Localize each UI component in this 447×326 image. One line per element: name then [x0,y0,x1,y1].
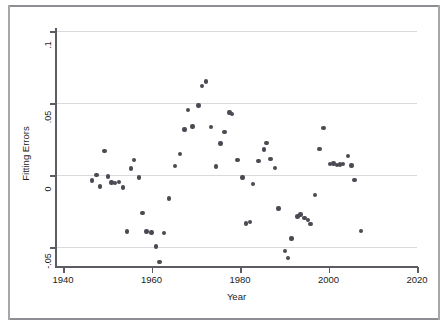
data-point [178,152,182,156]
data-point [308,222,312,226]
data-point [196,103,200,107]
data-point [102,149,106,153]
data-point [286,256,290,260]
data-point [276,206,280,210]
data-point [235,158,239,162]
chart-figure: .1.050-.05 19401960198020002020 Fitting … [0,0,447,326]
data-point [256,159,260,163]
data-point [140,211,144,215]
data-point [90,178,94,182]
gridline [57,31,417,32]
data-point [240,175,244,179]
x-tick [152,267,154,273]
gridline [57,103,417,104]
data-point [346,154,350,158]
gridline [57,247,417,248]
data-point [359,229,363,233]
data-point [167,196,171,200]
data-point [218,141,222,145]
x-tick-label: 1960 [132,274,172,285]
x-tick [63,267,65,273]
data-point [154,244,158,248]
data-point [209,125,213,129]
x-tick-label: 2000 [309,274,349,285]
data-point [313,193,317,197]
data-point [289,236,293,240]
x-tick [417,267,419,273]
data-point [321,126,325,130]
data-point [251,182,255,186]
data-point [144,229,148,233]
data-point [214,164,218,168]
data-point [132,158,136,162]
y-tick-label: .1 [43,30,53,60]
y-axis-line [55,28,57,267]
data-point [190,124,194,128]
data-point [317,147,321,151]
data-point [262,147,266,151]
data-point [149,230,153,234]
x-tick-label: 1980 [220,274,260,285]
data-point [173,164,177,168]
data-point [129,166,133,170]
data-point [352,178,356,182]
data-point [230,112,234,116]
gridline [57,175,417,176]
data-point [264,141,268,145]
data-point [98,184,102,188]
data-point [341,162,345,166]
data-point [283,249,287,253]
data-point [117,180,121,184]
y-axis-title: Fitting Errors [20,109,31,199]
data-point [248,220,252,224]
scatter-plot-area: .1.050-.05 19401960198020002020 Fitting … [0,0,447,326]
data-point [157,260,161,264]
y-tick-label: 0 [43,174,53,204]
data-point [204,79,208,83]
data-point [222,130,226,134]
x-axis-line [55,266,418,268]
data-point [121,185,125,189]
data-point [94,173,98,177]
data-point [273,166,277,170]
x-tick [329,267,331,273]
data-point [106,174,110,178]
data-point [137,175,141,179]
x-axis-title: Year [55,291,418,302]
data-point [182,127,186,131]
data-point [268,157,272,161]
data-point [125,229,129,233]
y-tick-label: .05 [43,102,53,132]
x-tick-label: 2020 [397,274,437,285]
x-tick-label: 1940 [43,274,83,285]
data-point [162,231,166,235]
y-tick-label: -.05 [43,246,53,276]
data-point [186,108,190,112]
x-tick [240,267,242,273]
data-point [200,84,204,88]
data-point [349,163,353,167]
